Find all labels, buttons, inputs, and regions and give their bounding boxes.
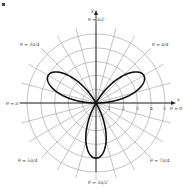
polar-plot: y x θ = π/2 θ = π/4 θ = 3π/4 θ = π θ = 0… bbox=[0, 0, 183, 193]
angle-label-7pi-4: θ = 7π/4 bbox=[150, 158, 170, 163]
angle-label-0: θ = 0 bbox=[170, 106, 182, 111]
radial-tick-2: 2 bbox=[122, 106, 125, 111]
radial-tick-5: 5 bbox=[163, 106, 166, 111]
angle-label-pi-4: θ = π/4 bbox=[152, 42, 169, 47]
radial-tick-1: 1 bbox=[108, 106, 111, 111]
angle-label-5pi-4: θ = 5π/4 bbox=[18, 158, 38, 163]
angle-label-pi-2: θ = π/2 bbox=[88, 17, 105, 22]
angle-label-3pi-2: θ = 3π/2 bbox=[88, 180, 108, 185]
x-axis-arrow-icon bbox=[171, 101, 176, 105]
radial-tick-4: 4 bbox=[150, 106, 153, 111]
x-axis-label: x bbox=[177, 96, 180, 102]
radial-tick-3: 3 bbox=[136, 106, 139, 111]
angle-label-pi: θ = π bbox=[6, 101, 19, 106]
y-axis-label: y bbox=[90, 7, 94, 14]
y-axis-arrow-icon bbox=[94, 10, 98, 15]
angle-label-3pi-4: θ = 3π/4 bbox=[20, 42, 40, 47]
